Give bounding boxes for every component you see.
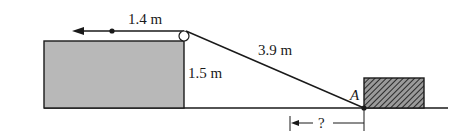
- physics-diagram: 1.4 m 3.9 m 1.5 m A ?: [0, 0, 463, 140]
- arrow-left-icon: [72, 27, 84, 35]
- platform-box: [44, 41, 184, 108]
- label-unknown-distance: ?: [318, 115, 325, 131]
- crate-box: [364, 78, 424, 108]
- label-rope-horizontal: 1.4 m: [128, 11, 163, 27]
- label-rope-slant: 3.9 m: [258, 42, 293, 58]
- pulley-icon: [179, 31, 189, 41]
- rope-point-dot: [109, 28, 114, 33]
- label-point-a: A: [349, 87, 360, 103]
- dim-arrow-left-icon: [291, 120, 299, 126]
- label-box-height: 1.5 m: [188, 65, 223, 81]
